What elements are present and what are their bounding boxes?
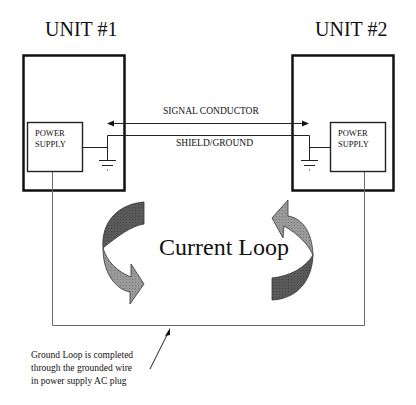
- arrowhead-left-icon: [107, 121, 114, 127]
- unit-1-power-supply-label: POWER SUPPLY: [35, 128, 66, 150]
- curved-arrow-left-icon: [103, 202, 144, 304]
- unit-2-power-supply-label: POWER SUPPLY: [338, 128, 369, 150]
- ground-symbol-1-icon: [99, 161, 116, 171]
- ground-symbol-2-icon: [301, 161, 318, 171]
- current-loop-label: Current Loop: [159, 234, 289, 261]
- ground-loop-annotation: Ground Loop is completed through the gro…: [31, 349, 133, 388]
- pointer-arrowhead-icon: [165, 328, 170, 336]
- ground-loop-diagram: [0, 0, 416, 405]
- shield-ground-label: SHIELD/GROUND: [176, 138, 253, 148]
- unit-1-title: UNIT #1: [45, 18, 117, 41]
- unit-2-title: UNIT #2: [315, 18, 387, 41]
- annotation-pointer: [150, 328, 170, 369]
- signal-conductor-label: SIGNAL CONDUCTOR: [163, 106, 259, 116]
- signal-conductor-line: [107, 121, 309, 127]
- arrowhead-right-icon: [302, 121, 309, 127]
